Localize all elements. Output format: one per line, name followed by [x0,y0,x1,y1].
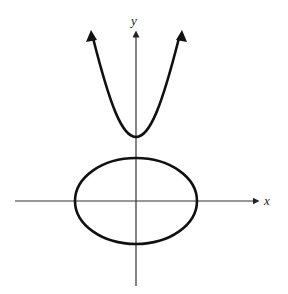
parabola-arrow-left-icon [86,30,97,42]
x-axis-label: x [263,193,270,208]
parabola-arrow-right-icon [176,30,187,42]
y-axis-label: y [129,13,137,28]
graph-canvas: x y [0,0,288,294]
